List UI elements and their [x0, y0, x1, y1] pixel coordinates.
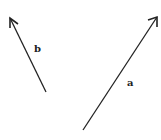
vector-b-label: b	[34, 43, 41, 54]
vector-b: b	[10, 18, 46, 92]
vector-b-shaft	[10, 18, 46, 92]
vector-a: a	[83, 17, 157, 130]
vector-a-shaft	[83, 17, 157, 130]
vector-diagram: a b	[0, 0, 161, 140]
vector-a-label: a	[127, 77, 134, 88]
